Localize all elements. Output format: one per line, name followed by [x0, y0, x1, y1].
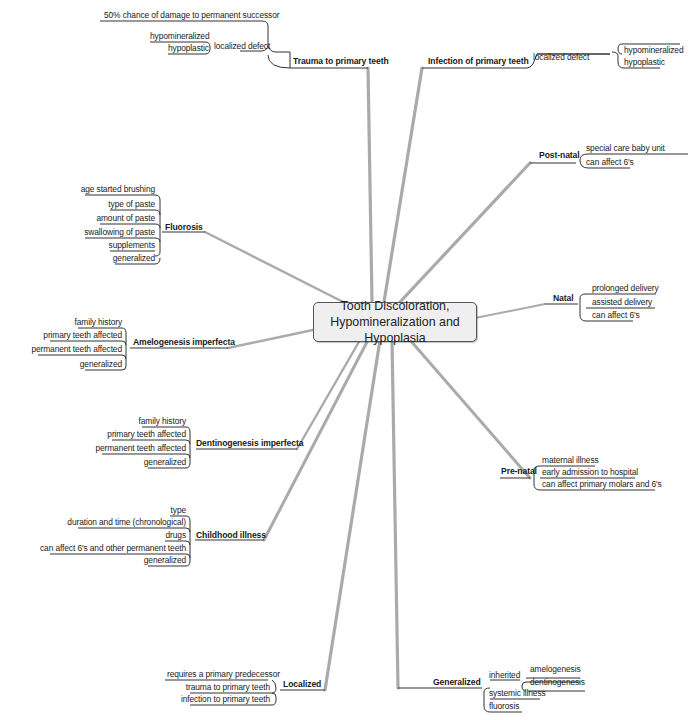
natal-child-assisted-delivery[interactable]: assisted delivery [592, 297, 652, 307]
fluorosis-child-type-of-paste[interactable]: type of paste [108, 199, 155, 209]
amelogenesis-child-primary-teeth[interactable]: primary teeth affected [43, 330, 122, 340]
branch-natal[interactable]: Natal [553, 293, 574, 303]
fluorosis-child-generalized[interactable]: generalized [113, 253, 155, 263]
generalized-child-systemic-illness[interactable]: systemic illness [489, 688, 546, 698]
branch-localized[interactable]: Localized [283, 679, 321, 689]
natal-child-prolonged-delivery[interactable]: prolonged delivery [592, 283, 659, 293]
prenatal-child-can-affect-molars[interactable]: can affect primary molars and 6's [542, 479, 662, 489]
amelogenesis-child-family-history[interactable]: family history [75, 317, 122, 327]
localized-child-requires-predecessor[interactable]: requires a primary predecessor [167, 669, 280, 679]
branch-fluorosis[interactable]: Fluorosis [165, 222, 203, 232]
infection-child-localized-defect[interactable]: localized defect [533, 52, 589, 62]
dentinogenesis-child-primary-teeth[interactable]: primary teeth affected [107, 429, 186, 439]
prenatal-child-maternal-illness[interactable]: maternal illness [542, 455, 599, 465]
trauma-child-localized-defect[interactable]: localized defect [214, 41, 270, 51]
inherited-child-dentinogenesis[interactable]: dentinogenesis [530, 677, 585, 687]
amelogenesis-child-permanent-teeth[interactable]: permanent teeth affected [31, 344, 122, 354]
childhood-child-drugs[interactable]: drugs [166, 530, 186, 540]
mind-map-canvas: Tooth Discoloration, Hypomineralization … [0, 0, 692, 720]
central-topic[interactable]: Tooth Discoloration, Hypomineralization … [313, 302, 477, 342]
prenatal-child-early-admission[interactable]: early admission to hospital [542, 467, 638, 477]
postnatal-child-can-affect-6s[interactable]: can affect 6's [586, 157, 634, 167]
branch-trauma-to-primary-teeth[interactable]: Trauma to primary teeth [293, 56, 389, 66]
branch-pre-natal[interactable]: Pre-natal [501, 466, 537, 476]
fluorosis-child-amount-of-paste[interactable]: amount of paste [96, 213, 155, 223]
inherited-child-amelogenesis[interactable]: amelogenesis [530, 664, 580, 674]
fluorosis-child-swallowing-of-paste[interactable]: swallowing of paste [84, 227, 155, 237]
central-topic-line1: Tooth Discoloration, [314, 298, 476, 314]
trauma-localized-hypoplastic[interactable]: hypoplastic [168, 43, 209, 53]
dentinogenesis-child-family-history[interactable]: family history [139, 416, 186, 426]
fluorosis-child-age-started-brushing[interactable]: age started brushing [81, 184, 155, 194]
childhood-child-can-affect-6s[interactable]: can affect 6's and other permanent teeth [40, 543, 186, 553]
branch-amelogenesis-imperfecta[interactable]: Amelogenesis imperfecta [133, 337, 235, 347]
fluorosis-child-supplements[interactable]: supplements [109, 240, 155, 250]
trauma-child-successor[interactable]: 50% chance of damage to permanent succes… [104, 10, 279, 20]
branch-dentinogenesis-imperfecta[interactable]: Dentinogenesis imperfecta [196, 438, 303, 448]
branch-childhood-illness[interactable]: Childhood illness [196, 530, 266, 540]
generalized-child-inherited[interactable]: inherited [489, 670, 520, 680]
childhood-child-duration[interactable]: duration and time (chronological) [67, 517, 186, 527]
postnatal-child-special-care[interactable]: special care baby unit [586, 143, 665, 153]
infection-localized-hypoplastic[interactable]: hypoplastic [624, 57, 665, 67]
childhood-child-type[interactable]: type [171, 505, 186, 515]
generalized-child-fluorosis[interactable]: fluorosis [489, 701, 519, 711]
dentinogenesis-child-generalized[interactable]: generalized [144, 457, 186, 467]
amelogenesis-child-generalized[interactable]: generalized [80, 359, 122, 369]
natal-child-can-affect-6s[interactable]: can affect 6's [592, 310, 640, 320]
branch-infection-of-primary-teeth[interactable]: Infection of primary teeth [428, 56, 529, 66]
localized-child-trauma[interactable]: trauma to primary teeth [186, 682, 270, 692]
branch-generalized[interactable]: Generalized [433, 677, 481, 687]
localized-child-infection[interactable]: infection to primary teeth [181, 694, 270, 704]
branch-post-natal[interactable]: Post-natal [539, 150, 580, 160]
dentinogenesis-child-permanent-teeth[interactable]: permanent teeth affected [95, 443, 186, 453]
infection-localized-hypomineralized[interactable]: hypomineralized [624, 45, 684, 55]
trauma-localized-hypomineralized[interactable]: hypomineralized [150, 31, 210, 41]
central-topic-line2: Hypomineralization and Hypoplasia [314, 314, 476, 346]
childhood-child-generalized[interactable]: generalized [144, 555, 186, 565]
